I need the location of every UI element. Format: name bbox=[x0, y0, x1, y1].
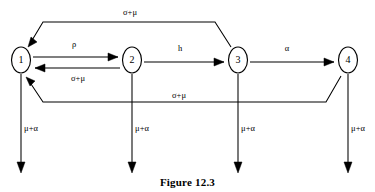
edge-2-to-3-label: h bbox=[178, 43, 183, 53]
figure-caption: Figure 12.3 bbox=[0, 176, 375, 188]
edge-3-to-4-label: α bbox=[285, 43, 290, 53]
node-2[interactable]: 2 bbox=[123, 47, 142, 73]
state-transition-diagram: 1234 ρσ+μhασ+μσ+μμ+αμ+αμ+αμ+α bbox=[0, 0, 375, 192]
edge-3-to-1-top-arrowhead bbox=[28, 37, 37, 47]
edge-3-exit-arrowhead bbox=[234, 162, 242, 173]
edge-4-to-1-bottom-label: σ+μ bbox=[172, 90, 186, 100]
edge-2-to-3[interactable] bbox=[144, 58, 224, 66]
node-2-label: 2 bbox=[130, 54, 135, 65]
nodes-layer: 1234 bbox=[12, 47, 358, 73]
node-4[interactable]: 4 bbox=[339, 47, 358, 73]
edge-2-exit-label: μ+α bbox=[135, 123, 149, 133]
node-1[interactable]: 1 bbox=[12, 47, 31, 73]
edge-1-exit-label: μ+α bbox=[24, 123, 38, 133]
edge-3-exit-label: μ+α bbox=[241, 123, 255, 133]
edge-4-exit-arrowhead bbox=[344, 162, 352, 173]
edge-1-exit-arrowhead bbox=[17, 162, 25, 173]
node-1-label: 1 bbox=[19, 54, 24, 65]
edge-3-to-4-arrowhead bbox=[324, 58, 334, 66]
edge-3-to-1-top[interactable] bbox=[28, 22, 231, 47]
edge-1-to-2-label: ρ bbox=[72, 39, 76, 49]
edge-1-to-2[interactable] bbox=[33, 53, 118, 61]
figure-container: 1234 ρσ+μhασ+μσ+μμ+αμ+αμ+αμ+α Figure 12.… bbox=[0, 0, 375, 192]
edge-4-exit-label: μ+α bbox=[351, 123, 365, 133]
edge-2-to-1-label: σ+μ bbox=[71, 73, 85, 83]
edge-2-exit-arrowhead bbox=[128, 162, 136, 173]
edge-3-to-4[interactable] bbox=[250, 58, 334, 66]
node-3-label: 3 bbox=[236, 54, 241, 65]
node-4-label: 4 bbox=[346, 54, 351, 65]
edge-4-to-1-bottom-arrowhead bbox=[26, 77, 35, 86]
edge-2-to-1-arrowhead bbox=[35, 64, 45, 72]
edge-labels-layer: ρσ+μhασ+μσ+μμ+αμ+αμ+αμ+α bbox=[24, 7, 365, 133]
edge-3-to-1-top-label: σ+μ bbox=[123, 7, 137, 17]
edge-3-to-1-top-line bbox=[31, 22, 231, 47]
node-3[interactable]: 3 bbox=[229, 47, 248, 73]
edge-1-to-2-arrowhead bbox=[108, 53, 118, 61]
edge-2-to-1[interactable] bbox=[35, 64, 120, 72]
edge-2-to-3-arrowhead bbox=[214, 58, 224, 66]
